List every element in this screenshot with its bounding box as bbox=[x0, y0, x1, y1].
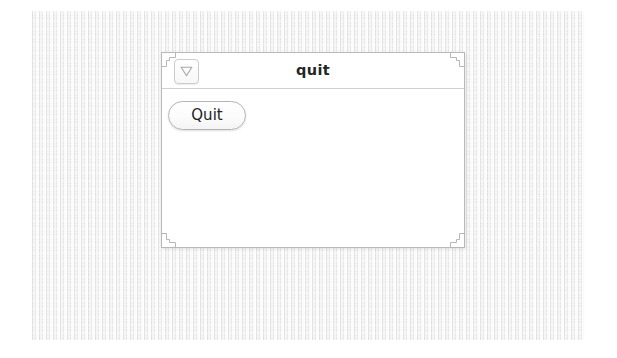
window-title: quit bbox=[162, 53, 464, 88]
triangle-down-icon bbox=[180, 62, 193, 81]
screenshot-root: quit Quit bbox=[0, 0, 617, 358]
window-menu-button[interactable] bbox=[174, 59, 199, 84]
quit-button[interactable]: Quit bbox=[168, 101, 246, 130]
quit-dialog-window[interactable]: quit Quit bbox=[161, 52, 465, 248]
window-content-area: Quit bbox=[162, 89, 464, 247]
window-titlebar[interactable]: quit bbox=[162, 53, 464, 89]
